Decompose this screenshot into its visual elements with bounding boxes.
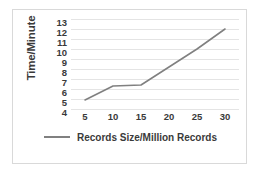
chart-legend: Records Size/Million Records bbox=[13, 128, 248, 146]
x-axis-tick-labels: 51015202530 bbox=[71, 111, 239, 125]
series-polyline-records-size bbox=[85, 29, 225, 100]
plot-region: Time/Minute 13121110987654 51015202530 bbox=[13, 10, 248, 120]
legend-line-swatch bbox=[44, 136, 70, 138]
y-axis-tick-labels: 13121110987654 bbox=[51, 14, 67, 114]
y-axis-title: Time/Minute bbox=[25, 8, 41, 88]
plot-area bbox=[71, 19, 239, 109]
x-axis-tick-label: 20 bbox=[156, 111, 182, 122]
series-line-chart bbox=[71, 19, 239, 109]
legend-item-label: Records Size/Million Records bbox=[77, 132, 217, 143]
y-axis-tick-label: 4 bbox=[62, 108, 67, 118]
x-axis-tick-label: 30 bbox=[212, 111, 238, 122]
chart-card: Time/Minute 13121110987654 51015202530 R… bbox=[12, 9, 247, 164]
gridline bbox=[71, 109, 239, 110]
x-axis-tick-label: 15 bbox=[128, 111, 154, 122]
x-axis-tick-label: 25 bbox=[184, 111, 210, 122]
x-axis-tick-label: 5 bbox=[72, 111, 98, 122]
x-axis-tick-label: 10 bbox=[100, 111, 126, 122]
